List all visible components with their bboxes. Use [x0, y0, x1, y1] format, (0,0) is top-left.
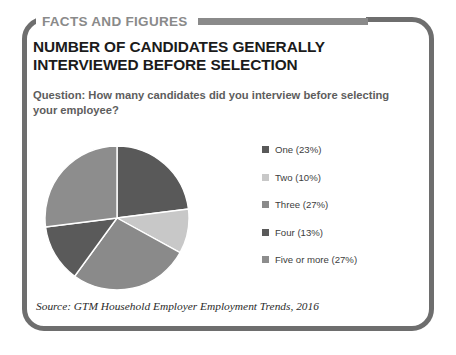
chart-legend: One (23%)Two (10%)Three (27%)Four (13%)F…	[262, 136, 412, 274]
legend-swatch-icon	[262, 256, 269, 263]
legend-item: One (23%)	[262, 136, 412, 164]
legend-item: Five or more (27%)	[262, 246, 412, 274]
legend-swatch-icon	[262, 174, 269, 181]
legend-label: Four (13%)	[275, 227, 323, 238]
pie-slice	[45, 146, 117, 227]
legend-swatch-icon	[262, 229, 269, 236]
legend-swatch-icon	[262, 146, 269, 153]
banner: FACTS AND FIGURES	[36, 11, 370, 31]
legend-label: Five or more (27%)	[275, 254, 357, 265]
legend-label: Two (10%)	[275, 172, 321, 183]
legend-item: Three (27%)	[262, 191, 412, 219]
legend-label: One (23%)	[275, 144, 321, 155]
legend-item: Four (13%)	[262, 219, 412, 247]
source-note: Source: GTM Household Employer Employmen…	[36, 300, 319, 312]
banner-rule	[198, 18, 368, 25]
pie-chart-svg	[44, 145, 190, 291]
page-title: NUMBER OF CANDIDATES GENERALLY INTERVIEW…	[33, 38, 403, 74]
pie-slice-group	[45, 146, 189, 290]
pie-slice	[117, 146, 188, 218]
pie-chart	[44, 145, 190, 291]
legend-swatch-icon	[262, 201, 269, 208]
legend-label: Three (27%)	[275, 199, 328, 210]
survey-question: Question: How many candidates did you in…	[33, 88, 405, 118]
legend-item: Two (10%)	[262, 164, 412, 192]
banner-title: FACTS AND FIGURES	[36, 14, 196, 29]
